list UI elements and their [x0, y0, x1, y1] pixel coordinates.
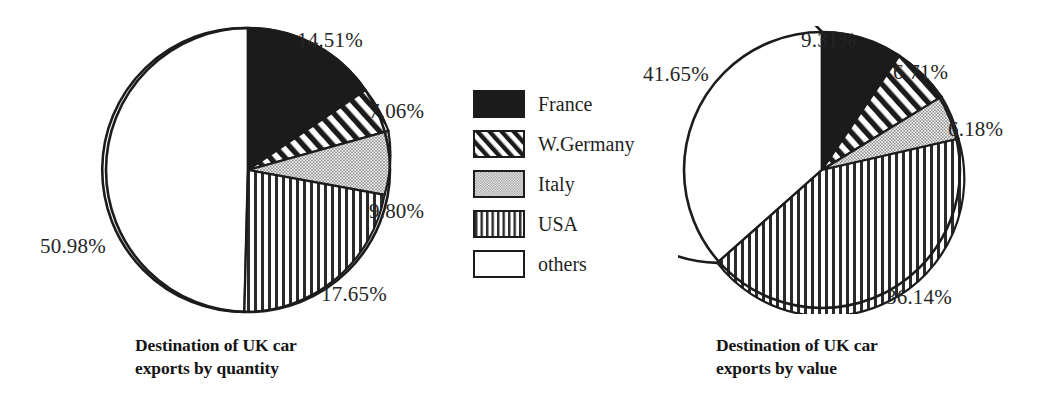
pie-label-others-quantity: 50.98%	[40, 234, 106, 259]
pie-label-others-value: 41.65%	[643, 62, 709, 87]
legend: France W.Germany Italy	[473, 84, 634, 284]
pie-chart-quantity-svg	[100, 22, 396, 318]
legend-label-others: others	[538, 253, 587, 276]
pie-label-usa-value: 36.14%	[886, 285, 952, 310]
legend-swatch-empty-icon	[473, 250, 525, 278]
legend-item-italy[interactable]: Italy	[473, 164, 634, 204]
pie-chart-quantity	[100, 22, 396, 318]
legend-item-usa[interactable]: USA	[473, 204, 634, 244]
legend-label-wgermany: W.Germany	[538, 133, 634, 156]
pie-label-france-quantity: 14.51%	[297, 28, 363, 53]
legend-swatch-vertical-icon	[473, 210, 525, 238]
caption-value: Destination of UK car exports by value	[716, 334, 878, 380]
legend-swatch-solid-icon	[473, 90, 525, 118]
pie-slice-others	[102, 28, 248, 312]
pie-label-usa-quantity: 17.65%	[321, 282, 387, 307]
legend-item-france[interactable]: France	[473, 84, 634, 124]
legend-label-usa: USA	[538, 213, 578, 236]
caption-quantity: Destination of UK car exports by quantit…	[135, 334, 297, 380]
pie-label-wgermany-quantity: 7.06%	[369, 99, 424, 124]
legend-item-others[interactable]: others	[473, 244, 634, 284]
legend-item-wgermany[interactable]: W.Germany	[473, 124, 634, 164]
pie-label-italy-quantity: 9.80%	[369, 199, 424, 224]
pie-label-italy-value: 6.18%	[948, 117, 1003, 142]
legend-label-italy: Italy	[538, 173, 575, 196]
pie-label-france-value: 9.31%	[801, 28, 856, 53]
pie-chart-figure: 14.51% 7.06% 9.80% 17.65% 50.98% Destina…	[0, 0, 1043, 403]
legend-label-france: France	[538, 93, 592, 116]
legend-swatch-stipple-icon	[473, 170, 525, 198]
legend-swatch-diagonal-icon	[473, 130, 525, 158]
pie-label-wgermany-value: 6.71%	[893, 60, 948, 85]
